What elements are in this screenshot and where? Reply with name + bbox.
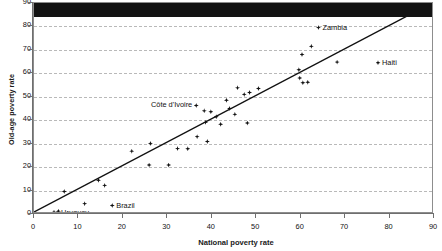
x-tick-label-10: 10 — [62, 222, 92, 231]
x-tick-label-20: 20 — [107, 222, 137, 231]
x-tick-label-90: 90 — [418, 222, 442, 231]
equality-reference-line — [34, 3, 432, 212]
plot-area: UruguayBrazilCôte d'IvoireZambiaHaiti — [33, 2, 433, 213]
scatter-chart-figure: Old-age poverty rate National poverty ra… — [0, 0, 442, 251]
x-tick-label-70: 70 — [329, 222, 359, 231]
x-tick-mark-0 — [33, 214, 34, 218]
x-tick-mark-50 — [255, 214, 256, 218]
y-tick-mark-40 — [28, 119, 32, 120]
x-tick-mark-80 — [389, 214, 390, 218]
x-axis-tick-labels: 0102030405060708090 — [0, 222, 442, 234]
x-tick-mark-60 — [300, 214, 301, 218]
point-label-zambia: Zambia — [322, 24, 347, 32]
y-tick-mark-90 — [28, 2, 32, 3]
point-label-uruguay: Uruguay — [61, 209, 89, 213]
x-tick-mark-30 — [166, 214, 167, 218]
y-tick-mark-10 — [28, 190, 32, 191]
y-tick-mark-20 — [28, 166, 32, 167]
y-tick-mark-30 — [28, 143, 32, 144]
y-tick-mark-0 — [28, 213, 32, 214]
x-tick-mark-90 — [433, 214, 434, 218]
x-tick-mark-20 — [122, 214, 123, 218]
x-axis-spine — [33, 213, 434, 214]
y-tick-mark-60 — [28, 72, 32, 73]
y-tick-label-90: 90 — [11, 0, 31, 6]
y-tick-mark-70 — [28, 49, 32, 50]
x-tick-label-30: 30 — [151, 222, 181, 231]
x-tick-label-40: 40 — [196, 222, 226, 231]
x-tick-label-60: 60 — [285, 222, 315, 231]
point-label-c-te-d-ivoire: Côte d'Ivoire — [151, 101, 192, 109]
x-tick-label-80: 80 — [374, 222, 404, 231]
point-label-brazil: Brazil — [116, 202, 134, 210]
point-label-haiti: Haiti — [382, 59, 397, 67]
x-tick-label-50: 50 — [240, 222, 270, 231]
y-tick-mark-50 — [28, 96, 32, 97]
x-tick-mark-40 — [211, 214, 212, 218]
x-axis-title: National poverty rate — [36, 238, 436, 247]
x-tick-mark-10 — [77, 214, 78, 218]
x-tick-label-0: 0 — [18, 222, 48, 231]
scan-artifact-band — [34, 3, 432, 17]
y-tick-mark-80 — [28, 25, 32, 26]
x-tick-mark-70 — [344, 214, 345, 218]
